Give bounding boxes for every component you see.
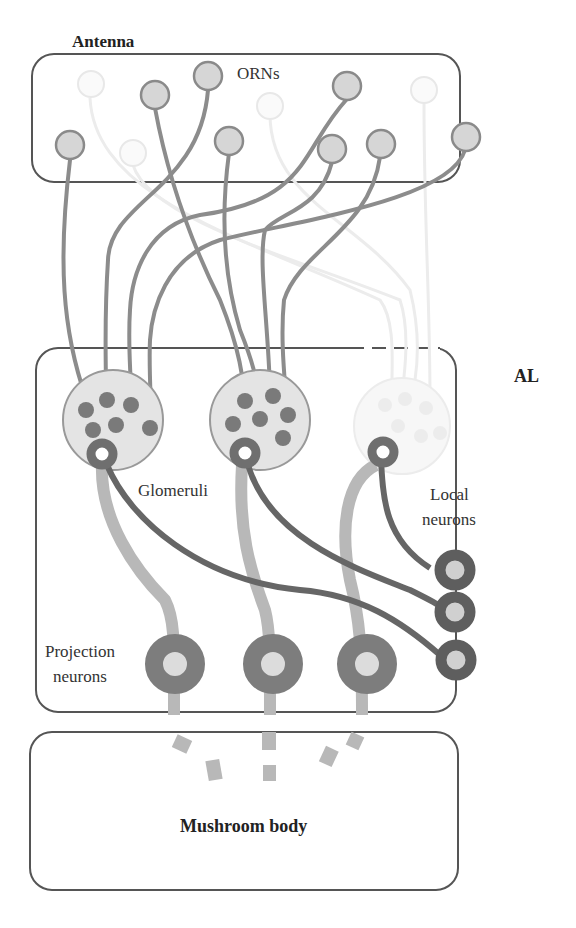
orn-faded-1 [78,71,104,97]
antenna-label: Antenna [72,32,135,51]
projection-neurons [154,643,388,685]
orn-faded-4 [411,77,437,103]
orn-faded-2 [120,140,146,166]
local-neuron-3 [441,645,471,675]
local-neuron-2 [440,597,470,627]
orn-6 [318,135,346,163]
glomeruli-label: Glomeruli [138,481,208,500]
local-neurons-label-1: Local [430,485,469,504]
pn-axons [102,465,376,715]
glomerulus-3-faded [354,378,450,474]
orn-3 [194,62,222,90]
projection-neuron-3 [346,643,388,685]
orn-5 [333,72,361,100]
local-neuron-1 [440,555,470,585]
projection-neuron-2 [252,643,294,685]
orn-8 [452,123,480,151]
orn-1 [56,131,84,159]
orn-7 [367,130,395,158]
orn-faded-3 [257,93,283,119]
pn-axon-terminals [172,732,365,781]
projection-neuron-1 [154,643,196,685]
local-neurons-label-2: neurons [422,510,476,529]
olfactory-diagram: Antenna ORNs AL Mushroom body [0,0,576,928]
local-neurons [440,555,471,675]
orn-2 [141,81,169,109]
projection-neurons-label-1: Projection [45,642,115,661]
mushroom-body-box [30,732,458,890]
al-label: AL [514,366,539,386]
orn-4 [215,127,243,155]
projection-neurons-label-2: neurons [53,667,107,686]
orns-label: ORNs [237,64,280,83]
mushroom-body-label: Mushroom body [180,816,307,836]
